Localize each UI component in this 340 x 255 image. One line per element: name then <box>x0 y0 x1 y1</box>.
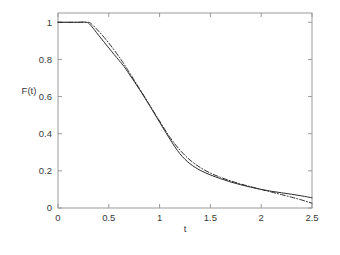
x-axis-tick-labels: 00.511.522.5 <box>55 212 318 223</box>
y-tick-label: 0 <box>47 202 52 213</box>
x-tick-label: 0.5 <box>102 212 115 223</box>
y-tick-label: 0.6 <box>39 91 52 102</box>
y-tick-label: 0.8 <box>39 54 52 65</box>
y-tick-label: 0.2 <box>39 165 52 176</box>
x-axis-label: t <box>184 223 187 234</box>
x-tick-label: 2.5 <box>305 212 318 223</box>
y-tick-label: 0.4 <box>39 128 52 139</box>
x-tick-label: 2 <box>259 212 264 223</box>
x-tick-label: 1.5 <box>204 212 217 223</box>
y-axis-label: F(t) <box>22 85 37 96</box>
x-tick-label: 0 <box>55 212 60 223</box>
plot-background <box>58 13 312 208</box>
line-chart: 00.511.522.5 00.20.40.60.81 t F(t) <box>0 0 340 255</box>
x-tick-label: 1 <box>157 212 162 223</box>
figure-container: 00.511.522.5 00.20.40.60.81 t F(t) <box>0 0 340 255</box>
y-tick-label: 1 <box>47 17 52 28</box>
y-axis-tick-labels: 00.20.40.60.81 <box>39 17 52 214</box>
